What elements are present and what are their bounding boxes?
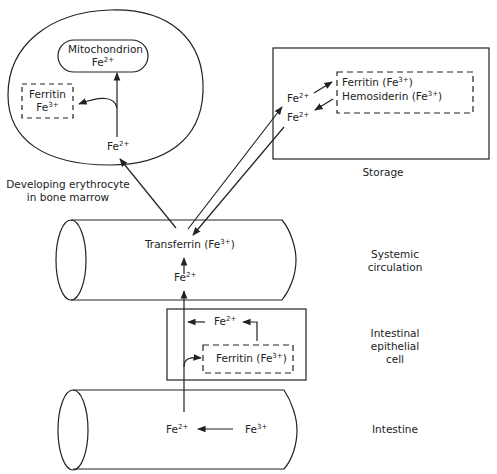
storage-ion-in: Fe2+ (287, 92, 309, 105)
mitochondrion-label: Mitochondrion Fe2+ (68, 43, 138, 69)
transferrin-label: Transferrin (Fe3+) (145, 238, 235, 251)
mitochondrion-ion: Fe2+ (68, 56, 138, 69)
epithelial-ion: Fe2+ (214, 315, 236, 328)
arrow-deposit-to-storage (315, 99, 333, 110)
epithelial-ferritin-label: Ferritin (Fe3+) (216, 352, 287, 365)
intestine-ion-dietary: Fe3+ (245, 423, 267, 436)
erythrocyte-ferritin-ion: Fe3+ (22, 101, 73, 114)
storage-caption: Storage (353, 166, 413, 179)
intestine-cylinder-end (58, 390, 88, 470)
arrow-ferritin-to-epithelial-fe (243, 322, 257, 341)
systemic-caption: Systemic circulation (355, 248, 435, 274)
arrow-storage-to-deposit (314, 82, 332, 93)
intestine-caption: Intestine (355, 423, 435, 436)
erythrocyte-caption: Developing erythrocyte in bone marrow (6, 178, 130, 204)
arrow-storage-to-transferrin (193, 127, 284, 235)
epithelial-caption: Intestinal epithelial cell (355, 327, 435, 366)
arrow-to-erythrocyte-ferritin (79, 98, 117, 108)
iron-pathway-diagram (0, 0, 497, 474)
arrow-into-epithelial-ferritin (184, 358, 201, 367)
arrow-transferrin-to-storage (188, 107, 282, 229)
erythrocyte-ferritin-label: Ferritin Fe3+ (22, 88, 73, 114)
systemic-ion: Fe2+ (174, 271, 196, 284)
storage-ion-out: Fe2+ (287, 111, 309, 124)
storage-ferritin-label: Ferritin (Fe3+) (342, 76, 413, 89)
storage-hemosiderin-label: Hemosiderin (Fe3+) (342, 90, 442, 103)
intestine-ion-reduced: Fe2+ (166, 423, 188, 436)
systemic-cylinder-end (56, 220, 86, 300)
erythrocyte-entry-ion: Fe2+ (107, 140, 129, 153)
